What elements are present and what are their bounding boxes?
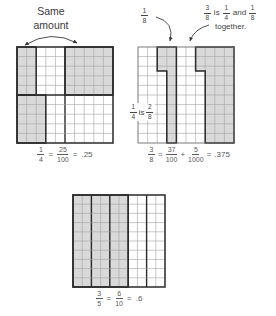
same-amount-line1: Same (37, 5, 64, 17)
inner-frac1-den: 4 (132, 113, 136, 121)
figure-canvas: Same amount 1 8 38 is 14 and 18 together… (0, 0, 276, 316)
left-cap-frac1-den: 4 (39, 155, 43, 163)
grid-right (138, 47, 234, 143)
left-cap-eq2: = (72, 150, 79, 159)
right-cap-frac2-den: 100 (166, 155, 178, 163)
note-frac1-num: 3 (204, 5, 211, 14)
left-cap-decimal: .25 (81, 150, 92, 159)
grid-bottom (73, 195, 165, 287)
bottom-cap-frac1-num: 3 (96, 290, 103, 299)
note-word-is: is (214, 8, 220, 17)
one-eighth-numerator: 1 (141, 7, 148, 16)
right-grid-caption: 38 = 37100 + 51000 = .375 (126, 146, 252, 163)
left-cap-eq1: = (47, 150, 54, 159)
note-frac3-den: 8 (251, 14, 255, 22)
one-eighth-arrow-icon (156, 17, 171, 41)
note-frac2-den: 4 (224, 14, 228, 22)
note-line2: together. (215, 21, 275, 34)
one-eighth-label: 1 8 (141, 7, 148, 24)
left-grid-caption: 14 = 25100 = .25 (10, 146, 120, 163)
note-word-and: and (233, 8, 246, 17)
bottom-cap-decimal: .6 (136, 294, 143, 303)
bottom-cap-frac2-num: 6 (116, 290, 123, 299)
left-cap-frac1-num: 1 (37, 146, 44, 155)
left-cap-frac2-num: 25 (57, 146, 68, 155)
note-frac1-den: 8 (206, 14, 210, 22)
same-amount-line2: amount (33, 19, 68, 31)
inner-frac2-num: 2 (146, 104, 153, 113)
right-cap-frac3-num: 5 (192, 146, 199, 155)
bottom-grid-caption: 35 = 610 = .6 (73, 290, 165, 307)
inner-frac1-num: 1 (130, 104, 137, 113)
note-frac2-num: 1 (223, 5, 230, 14)
inner-word-is: is (139, 108, 145, 117)
one-eighth-denominator: 8 (143, 16, 147, 24)
inner-frac2-den: 8 (148, 113, 152, 121)
same-amount-double-arrow-icon (25, 36, 77, 45)
bottom-cap-frac2-den: 10 (115, 299, 123, 307)
three-eighths-note: 38 is 14 and 18 together. (203, 5, 275, 34)
note-frac3-num: 1 (249, 5, 256, 14)
right-cap-eq1: = (157, 150, 164, 159)
right-cap-frac1-num: 3 (148, 146, 155, 155)
right-cap-eq2: = (206, 150, 213, 159)
left-cap-frac2-den: 100 (57, 155, 69, 163)
right-cap-plus: + (179, 150, 186, 159)
bottom-cap-frac1-den: 5 (97, 299, 101, 307)
right-cap-frac1-den: 8 (150, 155, 154, 163)
quarter-is-two-eighths-label: 14 is 28 (128, 103, 155, 121)
bottom-cap-eq2: = (126, 294, 133, 303)
bottom-cap-eq1: = (106, 294, 113, 303)
grid-left (17, 47, 113, 143)
right-cap-frac2-num: 37 (166, 146, 177, 155)
same-amount-label: Same amount (20, 4, 82, 32)
right-cap-decimal: .375 (214, 150, 230, 159)
right-cap-frac3-den: 1000 (188, 155, 204, 163)
